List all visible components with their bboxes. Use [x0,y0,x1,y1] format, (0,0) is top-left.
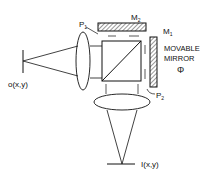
beam-line [122,110,137,164]
beam-line [107,110,122,164]
output-lens [94,94,150,110]
input-lens [76,32,90,90]
p2-label: P2 [156,91,164,101]
m1-label: M1 [163,27,173,37]
object-plane [23,46,78,76]
image-plane-label: I(x,y) [141,160,159,169]
p2-pointer [147,89,155,94]
interferometer-diagram: o(x,y) P1 M2 M1 MOVABLE MIRROR Φ P2 I(x,… [0,0,213,174]
movable-label: MOVABLE [164,44,200,53]
phase-symbol: Φ [177,65,184,75]
m2-label: M2 [131,13,141,23]
p1-label: P1 [79,20,87,30]
mirror-label: MIRROR [164,54,195,63]
beamsplitter-cube [102,41,141,81]
mirror-m2 [98,23,146,31]
p1-pointer [86,27,98,34]
object-plane-label: o(x,y) [8,80,28,89]
mirror-m1 [150,37,157,87]
